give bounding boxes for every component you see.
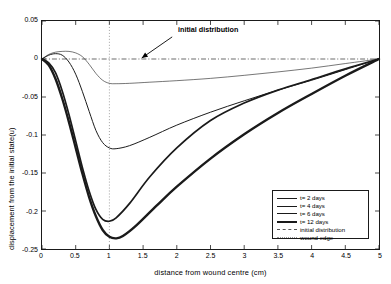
annotation-arrow-head [142,52,148,58]
x-tick-label: 0 [26,252,56,260]
legend-entry[interactable]: t= 6 days [276,210,365,217]
x-tick-label: 3 [229,252,259,260]
legend-label: wound edge [298,234,333,241]
x-tick-label: 1.5 [128,252,158,260]
curve-series-0 [42,51,379,83]
legend-entry[interactable]: wound edge [276,233,365,240]
legend-line-sample [276,226,298,233]
legend-label: initial distribution [298,226,345,233]
legend-entry[interactable]: initial distribution [276,226,365,233]
curve-series-1 [42,54,379,149]
x-tick-label: 4 [297,252,327,260]
x-tick-label: 0.5 [60,252,90,260]
legend-label: t= 2 days [298,194,325,201]
annotation-initial-distribution: initial distribution [178,25,238,34]
x-tick-label: 2.5 [196,252,226,260]
legend-line-sample [276,218,298,225]
x-axis-label: distance from wound centre (cm) [41,268,380,277]
x-tick-label: 5 [365,252,391,260]
legend-label: t= 12 days [298,218,328,225]
x-tick-label: 3.5 [263,252,293,260]
legend-entry[interactable]: t= 2 days [276,194,365,201]
chart-legend: t= 2 dayst= 4 dayst= 6 dayst= 12 daysini… [272,190,369,239]
legend-label: t= 6 days [298,210,325,217]
legend-line-sample [276,210,298,217]
x-tick-label: 4.5 [331,252,361,260]
legend-line-sample [276,202,298,209]
legend-label: t= 4 days [298,202,325,209]
y-axis-label: displacement from the initial state(u) [7,20,19,250]
legend-entry[interactable]: t= 12 days [276,218,365,225]
x-tick-label: 1 [94,252,124,260]
legend-line-sample [276,194,298,201]
figure-container: 0.050-0.05-0.1-0.15-0.2-0.25 displacemen… [0,0,391,284]
x-tick-label: 2 [162,252,192,260]
legend-entry[interactable]: t= 4 days [276,202,365,209]
legend-line-sample [276,234,298,241]
